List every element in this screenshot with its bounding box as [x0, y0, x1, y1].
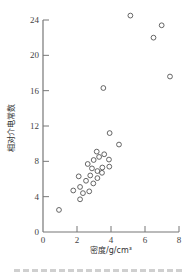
data-point [90, 166, 95, 171]
data-point [94, 149, 99, 154]
data-point [95, 176, 100, 181]
x-tick-label: 0 [41, 235, 46, 245]
data-point [84, 178, 89, 183]
data-point [78, 197, 83, 202]
x-tick-label: 2 [75, 235, 80, 245]
data-point [100, 165, 105, 170]
data-point [107, 164, 112, 169]
axes: 0481216202402468 [30, 15, 182, 245]
data-point [88, 173, 93, 178]
data-point [128, 13, 133, 18]
data-point [101, 86, 106, 91]
data-point [102, 152, 107, 157]
y-tick-label: 8 [35, 156, 40, 166]
data-point [78, 185, 83, 190]
data-point [91, 181, 96, 186]
data-point [117, 142, 122, 147]
data-point [76, 174, 81, 179]
data-point [91, 158, 96, 163]
y-axis-title: 相对介电常数 [6, 104, 16, 152]
data-point [81, 191, 86, 196]
x-axis-title: 密度/g/cm³ [90, 245, 132, 255]
y-tick-label: 12 [30, 121, 39, 131]
x-tick-label: 4 [109, 235, 114, 245]
data-point [100, 170, 105, 175]
data-point [168, 74, 173, 79]
y-tick-label: 20 [30, 50, 40, 60]
data-point [159, 23, 164, 28]
figure-caption-cropped [14, 266, 184, 272]
data-point [57, 208, 62, 213]
y-tick-label: 24 [30, 15, 40, 25]
data-points [57, 13, 173, 212]
x-tick-label: 6 [143, 235, 148, 245]
x-tick-label: 8 [177, 235, 182, 245]
data-point [107, 131, 112, 136]
data-point [87, 189, 92, 194]
data-point [107, 157, 112, 162]
data-point [95, 169, 100, 174]
data-point [85, 162, 90, 167]
scatter-chart: 0481216202402468 密度/g/cm³ 相对介电常数 [0, 0, 192, 272]
data-point [151, 35, 156, 40]
data-point [97, 155, 102, 160]
y-tick-label: 0 [35, 227, 40, 237]
data-point [71, 188, 76, 193]
y-tick-label: 4 [35, 192, 40, 202]
y-tick-label: 16 [30, 86, 40, 96]
